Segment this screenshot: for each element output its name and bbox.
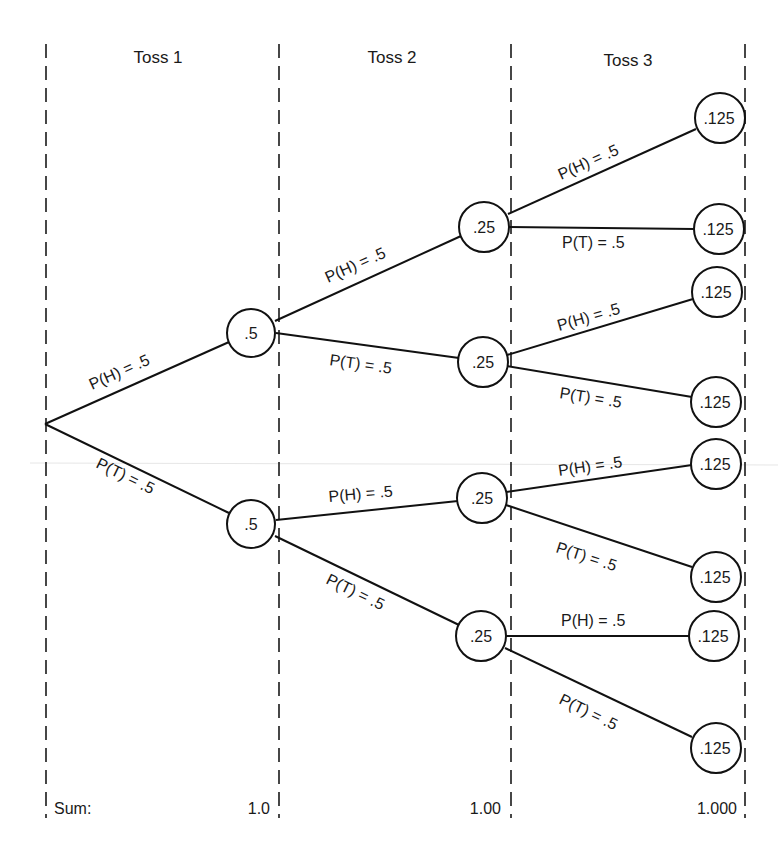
- label-HH-HHT: P(T) = .5: [562, 234, 625, 251]
- sum-toss-3: 1.000: [697, 800, 737, 817]
- node-HTT: .125: [691, 377, 741, 427]
- nodes-toss-1: .5 .5: [227, 309, 275, 548]
- column-dividers: [46, 44, 745, 818]
- scan-artifact-line: [30, 463, 778, 465]
- label-TT-TTH: P(H) = .5: [561, 612, 626, 629]
- label-H-HT: P(T) = .5: [329, 351, 394, 377]
- label-T-TH: P(H) = .5: [328, 482, 394, 505]
- column-header-toss-1: Toss 1: [133, 48, 182, 67]
- node-HHT: .125: [694, 204, 744, 254]
- node-TTH: .125: [689, 611, 739, 661]
- node-HH-value: .25: [473, 219, 495, 236]
- node-THT-value: .125: [699, 569, 730, 586]
- node-HTH: .125: [692, 267, 742, 317]
- node-TH: .25: [457, 473, 507, 523]
- node-THT: .125: [691, 552, 741, 602]
- node-HHT-value: .125: [702, 221, 733, 238]
- branch-H-HT: [276, 333, 459, 358]
- node-TT-value: .25: [470, 628, 492, 645]
- label-T-TT: P(T) = .5: [324, 570, 388, 613]
- node-THH: .125: [691, 439, 741, 489]
- node-HHH-value: .125: [703, 110, 734, 127]
- label-HT-HTT: P(T) = .5: [559, 384, 624, 411]
- node-HTT-value: .125: [699, 394, 730, 411]
- branch-H-HH: [275, 236, 461, 321]
- node-HHH: .125: [695, 93, 745, 143]
- node-THH-value: .125: [699, 456, 730, 473]
- node-HH: .25: [459, 202, 509, 252]
- branches: [45, 129, 696, 737]
- label-HH-HHH: P(H) = .5: [555, 141, 621, 183]
- node-TTT-value: .125: [699, 740, 730, 757]
- branch-labels: P(H) = .5 P(T) = .5 P(H) = .5 P(T) = .5 …: [86, 141, 625, 733]
- node-T: .5: [227, 500, 275, 548]
- sums-row: Sum: 1.0 1.00 1.000: [54, 800, 737, 817]
- sum-toss-2: 1.00: [470, 800, 501, 817]
- node-TTT: .125: [691, 723, 741, 773]
- node-TT: .25: [456, 611, 506, 661]
- branch-HH-HHH: [508, 129, 696, 214]
- label-TH-THT: P(T) = .5: [554, 539, 619, 575]
- node-HT: .25: [458, 337, 508, 387]
- label-TT-TTT: P(T) = .5: [557, 690, 621, 733]
- sum-toss-1: 1.0: [248, 800, 270, 817]
- column-header-toss-3: Toss 3: [603, 51, 652, 70]
- node-HT-value: .25: [472, 354, 494, 371]
- node-T-value: .5: [244, 516, 257, 533]
- probability-tree-diagram: Toss 1 Toss 2 Toss 3 P(H) = .5 P(T) = .5…: [0, 0, 778, 845]
- label-H-HH: P(H) = .5: [322, 244, 388, 286]
- label-HT-HTH: P(H) = .5: [555, 300, 622, 334]
- branch-root-T: [45, 424, 229, 513]
- column-header-toss-2: Toss 2: [367, 48, 416, 67]
- node-HTH-value: .125: [700, 284, 731, 301]
- label-TH-THH: P(H) = .5: [557, 453, 623, 479]
- branch-HH-HHT: [509, 227, 694, 229]
- label-root-T: P(T) = .5: [94, 454, 158, 497]
- node-TTH-value: .125: [697, 628, 728, 645]
- node-TH-value: .25: [471, 490, 493, 507]
- label-root-H: P(H) = .5: [86, 351, 152, 393]
- sum-label: Sum:: [54, 800, 91, 817]
- branch-T-TH: [276, 501, 458, 520]
- node-H-value: .5: [244, 325, 257, 342]
- nodes-toss-3: .125 .125 .125 .125 .125 .125 .125 .125: [689, 93, 745, 773]
- node-H: .5: [227, 309, 275, 357]
- branch-T-TT: [275, 536, 459, 625]
- nodes-toss-2: .25 .25 .25 .25: [456, 202, 509, 661]
